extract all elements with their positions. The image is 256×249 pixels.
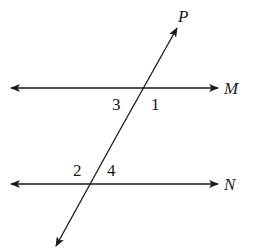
angle-3-label: 3: [112, 96, 121, 113]
diagram-canvas: [0, 0, 256, 249]
label-m: M: [224, 80, 238, 97]
angle-1-label: 1: [151, 96, 160, 113]
transversal-p: [56, 28, 177, 246]
angle-2-label: 2: [73, 162, 82, 179]
label-n: N: [224, 176, 235, 193]
angle-4-label: 4: [107, 162, 116, 179]
label-p: P: [178, 8, 188, 25]
